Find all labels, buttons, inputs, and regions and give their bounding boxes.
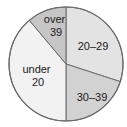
pie-chart-figure: 20–29 30–39 under 20 over 39 — [0, 0, 127, 127]
pie-label-under-20-line1: under — [22, 63, 50, 75]
pie-label-20-29-line1: 20–29 — [78, 40, 109, 52]
pie-label-30-39: 30–39 — [77, 91, 108, 103]
pie-chart-svg: 20–29 30–39 under 20 over 39 — [0, 0, 127, 127]
pie-label-30-39-line1: 30–39 — [77, 91, 108, 103]
pie-label-over-39-line1: over — [44, 13, 66, 25]
pie-label-under-20-line2: 20 — [32, 76, 44, 88]
pie-label-over-39-line2: 39 — [50, 26, 62, 38]
pie-label-20-29: 20–29 — [78, 40, 109, 52]
